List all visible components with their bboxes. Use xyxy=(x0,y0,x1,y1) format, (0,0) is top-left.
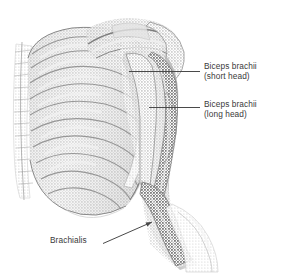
label-brachialis-line1: Brachialis xyxy=(50,235,87,245)
label-biceps-brachii-short-head: Biceps brachii (short head) xyxy=(204,61,257,82)
anatomy-illustration xyxy=(0,0,284,278)
label-brachialis: Brachialis xyxy=(50,235,87,245)
label-short-head-line1: Biceps brachii xyxy=(204,61,257,71)
label-biceps-brachii-long-head: Biceps brachii (long head) xyxy=(204,99,257,120)
label-long-head-line1: Biceps brachii xyxy=(204,99,257,109)
label-short-head-line2: (short head) xyxy=(204,71,257,81)
leader-line-brachialis xyxy=(103,222,152,244)
label-long-head-line2: (long head) xyxy=(204,109,257,119)
leader-line-short-head xyxy=(129,71,200,72)
anatomy-figure: Biceps brachii (short head) Biceps brach… xyxy=(0,0,284,278)
leader-line-long-head xyxy=(149,107,200,108)
